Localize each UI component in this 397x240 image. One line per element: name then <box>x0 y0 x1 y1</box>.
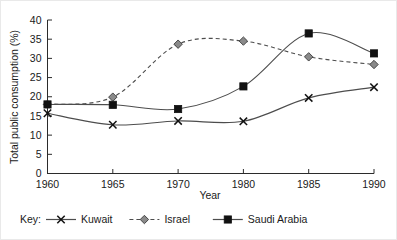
y-tick-label: 40 <box>30 14 42 26</box>
legend-label: Saudi Arabia <box>248 213 308 225</box>
y-tick-label: 10 <box>30 129 42 141</box>
x-tick-label: 1980 <box>232 178 256 190</box>
y-tick-label: 30 <box>30 52 42 64</box>
legend-label: Kuwait <box>81 213 113 225</box>
square-marker <box>109 101 116 108</box>
square-marker <box>44 101 51 108</box>
legend-prefix-label: Key: <box>20 213 41 225</box>
y-axis-tick-labels: 0510152025303540 <box>30 14 42 180</box>
x-tick-label: 1970 <box>166 178 190 190</box>
y-tick-label: 15 <box>30 110 42 122</box>
legend-item-kuwait[interactable]: Kuwait <box>46 213 113 225</box>
chart-legend: Key: KuwaitIsraelSaudi Arabia <box>20 213 308 225</box>
figure-container: 0510152025303540 19601965197019801985199… <box>0 0 397 240</box>
square-marker <box>305 30 312 37</box>
x-tick-label: 1985 <box>297 178 321 190</box>
y-tick-label: 35 <box>30 33 42 45</box>
line-chart: 0510152025303540 19601965197019801985199… <box>0 0 397 240</box>
y-axis-title: Total public consumption (%) <box>8 30 20 164</box>
square-marker <box>224 216 231 223</box>
x-tick-label: 1960 <box>36 178 60 190</box>
legend-label: Israel <box>164 213 190 225</box>
square-marker <box>175 105 182 112</box>
x-tick-label: 1965 <box>101 178 125 190</box>
y-tick-label: 5 <box>36 148 42 160</box>
x-tick-label: 1990 <box>362 178 386 190</box>
legend-item-israel[interactable]: Israel <box>129 213 190 225</box>
y-tick-label: 25 <box>30 71 42 83</box>
legend-item-saudi-arabia[interactable]: Saudi Arabia <box>213 213 308 225</box>
y-tick-label: 20 <box>30 90 42 102</box>
diamond-marker <box>140 215 148 223</box>
square-marker <box>240 83 247 90</box>
square-marker <box>370 50 377 57</box>
x-axis-tick-labels: 196019651970198019851990 <box>36 178 386 190</box>
x-axis-title: Year <box>199 189 221 201</box>
plot-area-background <box>47 20 374 174</box>
